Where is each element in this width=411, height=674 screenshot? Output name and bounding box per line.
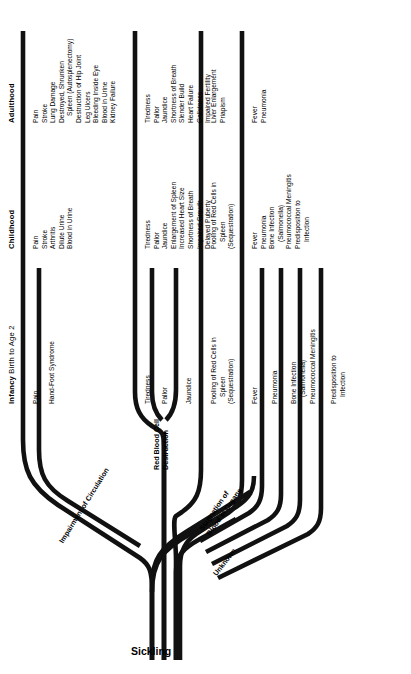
item-bleeding-inside-eye-a: Bleeding Inside Eye [92, 39, 101, 123]
item-spleen-autosplenectomy-a: Spleen (Autosplenectomy) [66, 39, 75, 123]
item-fever-a: Fever [251, 90, 260, 123]
branch-pneumococcal [212, 268, 300, 564]
item-pooling-c1: Pooling of Red Cells in [210, 182, 219, 249]
item-pooling-i3: (Sequestration) [227, 337, 236, 404]
item-gallstones-a: Gallstones [196, 65, 205, 123]
item-fever-c: Fever [251, 174, 260, 249]
item-bone-infection-c: Bone Infection [268, 174, 277, 249]
item-pooling-c3: (Sequestration) [227, 182, 236, 249]
item-jaundice-a: Jaundice [161, 65, 170, 123]
branch-fever-childhood: Fever Pneumonia Bone Infection (Salmonel… [251, 174, 311, 249]
item-infection-i: Infection [339, 355, 348, 404]
branch-pooling-infancy: Pooling of Red Cells in Spleen (Sequestr… [210, 337, 236, 404]
item-blood-in-urine-a: Blood in Urine [101, 39, 110, 123]
branch-jaundice-infancy: Jaundice [185, 378, 194, 404]
branch-fever-infancy: Fever [251, 387, 260, 404]
item-increased-heart-size-c: Increased Heart Size [178, 182, 187, 249]
branch-pain-adulthood: Pain Stroke Lung Damage Destroyed, Shrun… [32, 39, 118, 123]
item-tiredness-c: Tiredness [144, 182, 153, 249]
item-priapism-a: Priapism [219, 69, 228, 123]
item-liver-enlargement-a: Liver Enlargement [210, 69, 219, 123]
item-bone-infection-i: Bone Infection [290, 360, 299, 404]
item-pooling-i1: Pooling of Red Cells in [210, 337, 219, 404]
branch-pain-childhood: Pain Stroke Arthritis Dilute Urine Blood… [32, 208, 75, 249]
header-infancy: Infancy Birth to Age 2 [8, 325, 16, 404]
branch-pooling-adulthood: Liver Enlargement Priapism [210, 69, 227, 123]
item-blood-in-urine-c: Blood in Urine [66, 208, 75, 249]
item-leg-ulcers-a: Leg Ulcers [84, 39, 93, 123]
item-pooling-c2: Spleen [219, 182, 228, 249]
item-dilute-urine-c: Dilute Urine [58, 208, 67, 249]
item-impaired-growth-c: Impaired Growth [196, 182, 205, 249]
item-pneumococcal-meningitis-i: Pneumococcal Meningitis [309, 329, 318, 404]
branch-hand-foot-infancy: Hand-Foot Syndrome [48, 341, 57, 404]
item-jaundice-c: Jaundice [161, 182, 170, 249]
item-pain-infancy: Pain [32, 391, 41, 404]
item-jaundice-i: Jaundice [185, 378, 194, 404]
item-predisposition-c: Predisposition to [294, 174, 303, 249]
item-stroke-c: Stroke [41, 208, 50, 249]
branch-pneumococcal-infancy: Pneumococcal Meningitis [309, 329, 318, 404]
branch-bone-infection-infancy: Bone Infection (Salmonella) [290, 360, 307, 404]
item-predisposition-i: Predisposition to [330, 355, 339, 404]
item-arthritis-c: Arthritis [49, 208, 58, 249]
branch-predisposition [218, 268, 321, 578]
branch-predisposition-infancy: Predisposition to Infection [330, 355, 347, 404]
branch-pooling-childhood: Pooling of Red Cells in Spleen (Sequestr… [210, 182, 236, 249]
branch-pain [23, 31, 152, 660]
item-pallor-i: Pallor [161, 387, 170, 404]
pathway-label-rbc: Red Blood Cell Destruction [152, 419, 170, 470]
item-tiredness-i: Tiredness [144, 375, 153, 404]
trunk-impairment [152, 492, 250, 660]
item-pneumonia-c: Pneumonia [260, 174, 269, 249]
item-kidney-failure-a: Kidney Failure [109, 39, 118, 123]
pathway-label-rbc-line1: Red Blood Cell [152, 419, 161, 470]
item-tiredness-a: Tiredness [144, 65, 153, 123]
item-fever-i: Fever [251, 387, 260, 404]
item-salmonella-i: (Salmonella) [299, 360, 308, 404]
item-pain-a: Pain [32, 39, 41, 123]
branch-tiredness-infancy: Tiredness [144, 375, 153, 404]
diagram-canvas: Infancy Birth to Age 2 Childhood Adultho… [0, 0, 411, 674]
root-label-sickling: Sickling [131, 645, 171, 657]
item-hand-foot-syndrome: Hand-Foot Syndrome [48, 341, 57, 404]
item-pneumonia-a: Pneumonia [260, 90, 269, 123]
item-pooling-i2: Spleen [219, 337, 228, 404]
branch-pain-infancy: Pain [32, 391, 41, 404]
branch-pallor-infancy: Pallor [161, 387, 170, 404]
item-infection-c: Infection [303, 174, 312, 249]
branch-tiredness-adulthood: Tiredness Pallor Jaundice Shortness of B… [144, 65, 213, 123]
item-destroyed-shrunken-a: Destroyed, Shrunken [58, 39, 67, 123]
item-pain-c: Pain [32, 208, 41, 249]
header-childhood: Childhood [8, 210, 16, 249]
header-infancy-rest: Birth to Age 2 [7, 325, 16, 376]
branch-pneumonia-infancy: Pneumonia [271, 371, 280, 404]
item-slender-build-a: Slender Build [178, 65, 187, 123]
item-destruction-hip-joint-a: Destruction of Hip Joint [75, 39, 84, 123]
item-shortness-breath-a: Shortness of Breath [170, 65, 179, 123]
item-pallor-c: Pallor [153, 182, 162, 249]
item-enlargement-spleen-c: Enlargement of Spleen [170, 182, 179, 249]
item-pneumococcal-meningitis-c: Pneumococcal Meningitis [285, 174, 294, 249]
item-pneumonia-i: Pneumonia [271, 371, 280, 404]
item-stroke-a: Stroke [41, 39, 50, 123]
branch-tiredness-childhood: Tiredness Pallor Jaundice Enlargement of… [144, 182, 213, 249]
item-lung-damage-a: Lung Damage [49, 39, 58, 123]
branch-fever-adulthood: Fever Pneumonia [251, 90, 268, 123]
item-salmonella-c: (Salmonella) [277, 174, 286, 249]
item-shortness-breath-c: Shortness of Breath [187, 182, 196, 249]
header-adulthood: Adulthood [8, 83, 16, 123]
header-infancy-bold: Infancy [7, 376, 16, 404]
item-heart-failure-a: Heart Failure [187, 65, 196, 123]
pathway-label-rbc-line2: Destruction [161, 419, 170, 470]
item-pallor-a: Pallor [153, 65, 162, 123]
